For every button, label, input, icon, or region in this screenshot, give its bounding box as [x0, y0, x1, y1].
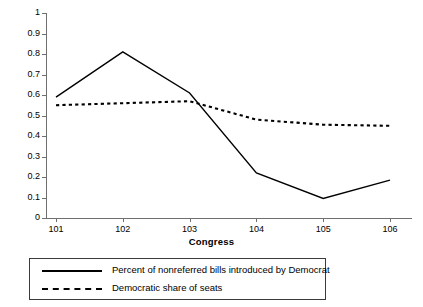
legend-box: Percent of nonreferred bills introduced … — [29, 258, 326, 300]
chart-figure: 10.90.80.70.60.50.40.30.20.10 1011021031… — [0, 0, 423, 307]
series-line-solid — [56, 52, 390, 199]
legend-key-solid-icon — [42, 270, 102, 272]
legend-item-0: Percent of nonreferred bills introduced … — [30, 263, 325, 279]
x-axis-title: Congress — [0, 236, 423, 247]
legend-label-0: Percent of nonreferred bills introduced … — [112, 264, 330, 276]
plot-area: 10.90.80.70.60.50.40.30.20.10 1011021031… — [0, 0, 423, 240]
legend-key-dashed-icon — [42, 288, 102, 290]
series-line-dashed — [56, 101, 390, 126]
legend-item-1: Democratic share of seats — [30, 281, 325, 297]
legend-label-1: Democratic share of seats — [112, 282, 222, 294]
series-lines — [0, 0, 423, 240]
